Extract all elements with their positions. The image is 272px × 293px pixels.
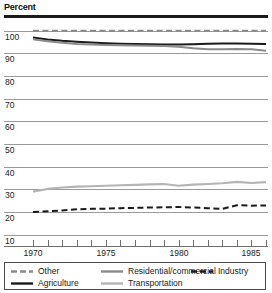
x-axis-tick xyxy=(237,240,238,246)
x-axis-tick xyxy=(33,240,34,246)
series-layer xyxy=(4,24,268,246)
x-axis-label: 1970 xyxy=(24,248,43,258)
x-axis-tick xyxy=(62,240,63,246)
legend-swatch-icon xyxy=(101,267,123,276)
x-axis-tick xyxy=(48,240,49,246)
x-axis-tick xyxy=(150,240,151,246)
x-axis-tick xyxy=(77,240,78,246)
title-rule xyxy=(4,15,268,18)
x-axis-label: 1985 xyxy=(242,248,261,258)
legend-label: Agriculture xyxy=(38,278,79,288)
x-axis-tick xyxy=(251,240,252,246)
x-axis-label: 1980 xyxy=(170,248,189,258)
legend-item[interactable]: Industry xyxy=(191,266,248,276)
series-line xyxy=(33,205,266,212)
legend-label: Transportation xyxy=(128,278,183,288)
x-axis-label: 1975 xyxy=(97,248,116,258)
x-axis-tick xyxy=(120,240,121,246)
x-axis-tick xyxy=(179,240,180,246)
x-axis-tick xyxy=(135,240,136,246)
percent-line-chart: Percent 100908070605040302010 1970197519… xyxy=(0,0,272,293)
legend-swatch-icon xyxy=(11,279,33,288)
x-axis-tick xyxy=(266,240,267,246)
legend-swatch-icon xyxy=(191,267,213,276)
x-axis-tick xyxy=(106,240,107,246)
legend-label: Industry xyxy=(218,266,248,276)
legend-swatch-icon xyxy=(101,279,123,288)
chart-legend: OtherResidential/commercialIndustryAgric… xyxy=(4,262,266,290)
legend-item[interactable]: Transportation xyxy=(101,278,183,288)
chart-title: Percent xyxy=(4,2,36,12)
x-axis-tick xyxy=(222,240,223,246)
x-axis-tick xyxy=(193,240,194,246)
plot-area: 100908070605040302010 xyxy=(4,24,268,246)
x-axis-tick xyxy=(91,240,92,246)
legend-item[interactable]: Agriculture xyxy=(11,278,79,288)
x-axis-line xyxy=(4,246,268,247)
x-axis-tick xyxy=(208,240,209,246)
legend-swatch-icon xyxy=(11,267,33,276)
series-line xyxy=(33,182,266,192)
legend-label: Other xyxy=(38,266,59,276)
x-axis-tick xyxy=(164,240,165,246)
legend-item[interactable]: Other xyxy=(11,266,59,276)
